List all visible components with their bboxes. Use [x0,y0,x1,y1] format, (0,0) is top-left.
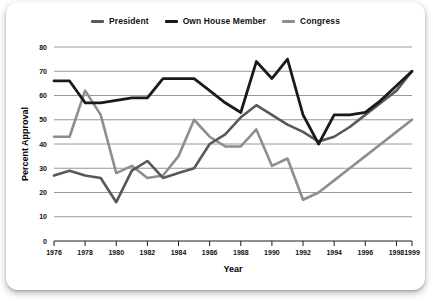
y-axis-title: Percent Approval [20,107,30,181]
x-axis-tick-label: 1990 [264,249,280,256]
x-axis-tick-label: 1976 [46,249,62,256]
x-axis-tick-label: 1996 [358,249,374,256]
x-axis-tick-label: 1999 [404,249,420,256]
x-axis-tick-label: 1988 [233,249,249,256]
x-axis-tick-label: 1998 [389,249,405,256]
x-axis-tick-label: 1994 [326,249,342,256]
x-axis-tick-label: 1986 [202,249,218,256]
y-axis-tick-label: 10 [39,213,47,220]
line-chart-plot: 0102030405060708019761978198019821984198… [6,2,425,290]
x-axis-title: Year [223,264,243,274]
series-line-own-house-member [54,59,412,144]
y-axis-tick-label: 50 [39,116,47,123]
chart-card: PresidentOwn House MemberCongress 010203… [6,2,425,290]
x-axis-tick-label: 1984 [171,249,187,256]
y-axis-tick-label: 80 [39,44,47,51]
y-axis-tick-label: 20 [39,189,47,196]
y-axis-tick-label: 60 [39,92,47,99]
y-axis-tick-label: 40 [39,141,47,148]
x-axis-tick-label: 1982 [140,249,156,256]
y-axis-tick-label: 70 [39,68,47,75]
y-axis-tick-label: 0 [43,238,47,245]
chart-screenshot-root: PresidentOwn House MemberCongress 010203… [0,0,433,303]
y-axis-tick-label: 30 [39,165,47,172]
x-axis-tick-label: 1980 [108,249,124,256]
x-axis-tick-label: 1978 [77,249,93,256]
x-axis-tick-label: 1992 [295,249,311,256]
